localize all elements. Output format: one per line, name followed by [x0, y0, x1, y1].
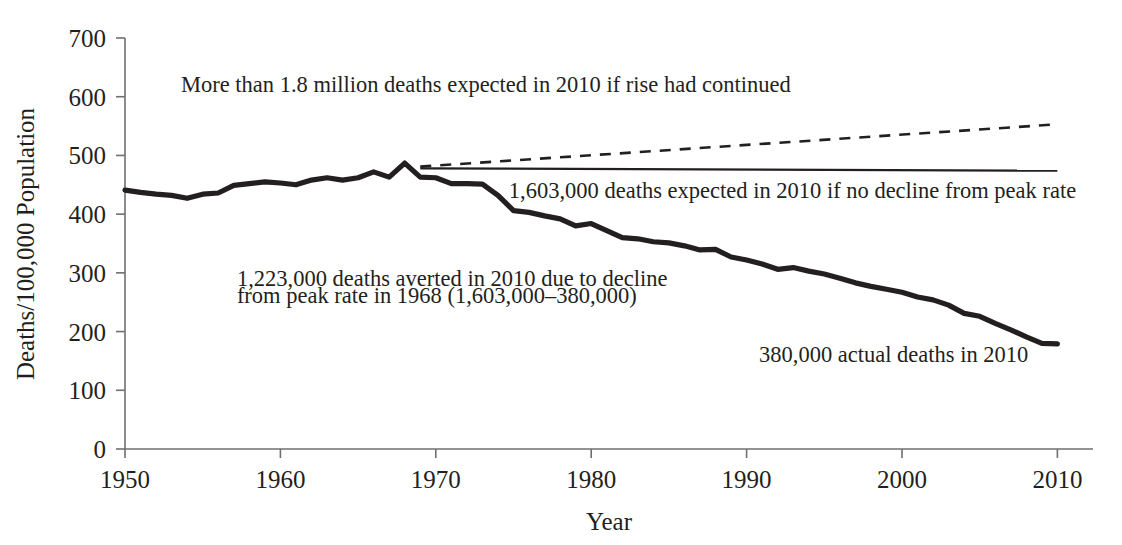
y-tick-label: 200	[69, 319, 107, 346]
y-tick-label: 300	[69, 260, 107, 287]
chart-annotations: More than 1.8 million deaths expected in…	[181, 72, 1076, 367]
y-tick-label: 600	[69, 84, 107, 111]
x-axis-ticks	[125, 449, 1057, 458]
line-chart: 0100200300400500600700 19501960197019801…	[0, 0, 1122, 545]
y-tick-label: 400	[69, 201, 107, 228]
y-tick-label: 500	[69, 142, 107, 169]
series-line-no-decline	[420, 168, 1057, 170]
data-series	[125, 124, 1057, 344]
chart-annotation-deaths-averted-line-2: from peak rate in 1968 (1,603,000–380,00…	[237, 283, 637, 308]
y-tick-label: 0	[94, 436, 107, 463]
y-axis-tick-labels: 0100200300400500600700	[69, 25, 107, 463]
x-tick-label: 1970	[411, 466, 461, 493]
x-tick-label: 1980	[566, 466, 616, 493]
x-tick-label: 1950	[100, 466, 150, 493]
y-axis-title: Deaths/100,000 Population	[12, 107, 39, 380]
x-tick-label: 1960	[255, 466, 305, 493]
x-tick-label: 2010	[1032, 466, 1082, 493]
chart-annotation-rise-continued: More than 1.8 million deaths expected in…	[181, 72, 791, 97]
x-tick-label: 2000	[877, 466, 927, 493]
x-tick-label: 1990	[722, 466, 772, 493]
chart-annotation-actual-deaths: 380,000 actual deaths in 2010	[759, 342, 1028, 367]
x-axis-tick-labels: 1950196019701980199020002010	[100, 466, 1082, 493]
axes	[116, 38, 1093, 458]
chart-container: 0100200300400500600700 19501960197019801…	[0, 0, 1122, 545]
series-line-rise-continued	[420, 124, 1057, 166]
y-tick-label: 100	[69, 377, 107, 404]
y-axis-ticks	[116, 38, 125, 449]
y-tick-label: 700	[69, 25, 107, 52]
x-axis-title: Year	[586, 508, 633, 535]
chart-annotation-no-decline: 1,603,000 deaths expected in 2010 if no …	[509, 178, 1076, 203]
